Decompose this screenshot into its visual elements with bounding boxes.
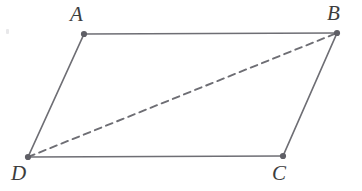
vertex-label-a: A <box>70 4 83 25</box>
vertex-dot-a <box>81 31 87 37</box>
vertex-dot-b <box>334 30 340 36</box>
vertex-label-c: C <box>272 163 286 184</box>
scan-speck-artifact <box>6 29 9 34</box>
geometry-figure-canvas: A B C D <box>0 0 362 191</box>
edge-cd-bottom <box>28 156 283 157</box>
vertex-dots-group <box>25 30 340 160</box>
vertex-dot-d <box>25 154 31 160</box>
edge-ab-top <box>84 33 337 34</box>
parallelogram-drawing <box>0 0 362 191</box>
vertex-label-b: B <box>327 3 340 24</box>
vertex-dot-c <box>280 153 286 159</box>
vertex-label-d: D <box>11 163 26 184</box>
